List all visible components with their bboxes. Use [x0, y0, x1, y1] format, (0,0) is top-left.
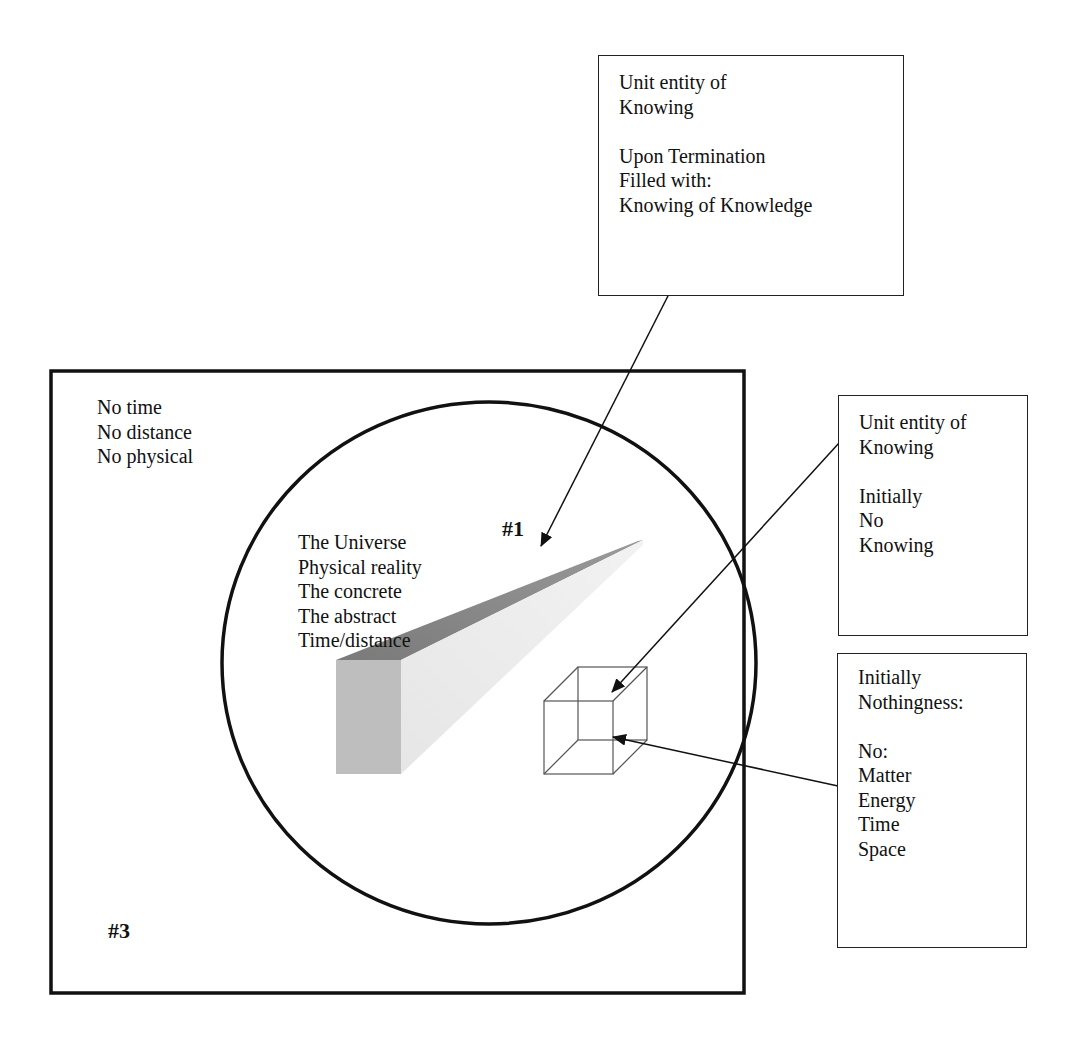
arrow-nothingness-to-cube [613, 737, 838, 786]
arrow-termination-to-prism [541, 288, 672, 546]
outer-region-marker: #3 [108, 919, 130, 944]
callout-initial-knowing-text: Unit entity of Knowing Initially No Know… [859, 410, 967, 557]
callout-termination-text: Unit entity of Knowing Upon Termination … [619, 70, 812, 217]
universe-label: The Universe Physical reality The concre… [298, 530, 422, 653]
callout-nothingness-text: Initially Nothingness: No: Matter Energy… [858, 665, 964, 861]
arrow-knowing-to-cube [612, 443, 839, 692]
callout-initial-knowing: Unit entity of Knowing Initially No Know… [838, 395, 1028, 636]
outer-region-label: No time No distance No physical [97, 395, 193, 469]
universe-marker: #1 [502, 517, 524, 542]
callout-termination: Unit entity of Knowing Upon Termination … [598, 55, 904, 296]
callout-nothingness: Initially Nothingness: No: Matter Energy… [837, 653, 1027, 948]
cube-wireframe [544, 667, 647, 774]
